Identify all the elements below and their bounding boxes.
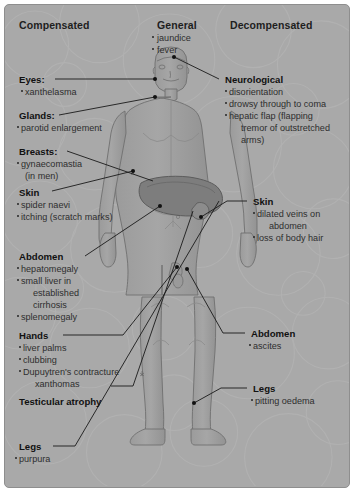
- diagram-panel: Compensated General jaundice fever Decom…: [4, 4, 350, 488]
- bullet-markers: [5, 5, 350, 488]
